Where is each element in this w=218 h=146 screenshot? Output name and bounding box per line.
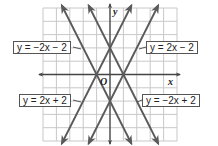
axes — [39, 4, 180, 144]
origin-label: O — [100, 76, 107, 87]
y-axis-label: y — [113, 6, 117, 17]
equation-text: y = 2x − 2 — [150, 42, 194, 53]
equation-label-y-neg2x-minus2: y = −2x − 2 — [13, 41, 71, 54]
equation-text: y = −2x − 2 — [17, 42, 67, 53]
coordinate-graph — [0, 0, 218, 146]
equation-label-y-2x-minus2: y = 2x − 2 — [146, 41, 198, 54]
equation-text: y = 2x + 2 — [23, 95, 67, 106]
x-axis-label: x — [168, 76, 173, 87]
equation-label-y-neg2x-plus2: y = −2x + 2 — [142, 94, 200, 107]
equation-text: y = −2x + 2 — [146, 95, 196, 106]
equation-label-y-2x-plus2: y = 2x + 2 — [19, 94, 71, 107]
